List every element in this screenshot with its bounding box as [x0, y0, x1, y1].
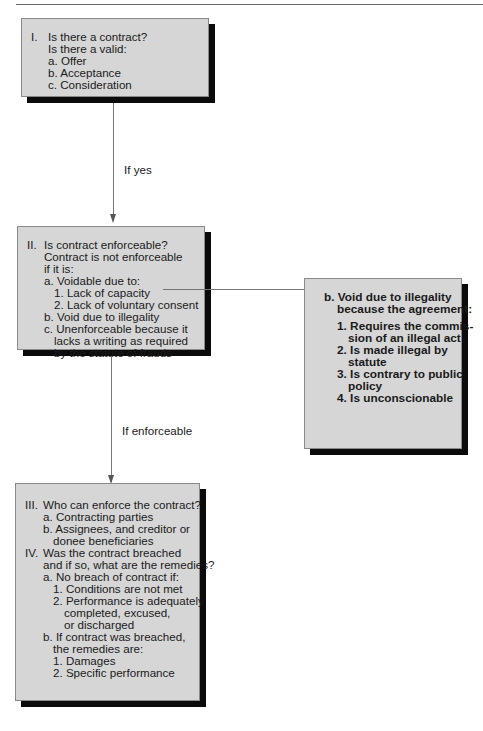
section-number: III.: [25, 499, 38, 511]
connector-label-if-yes: If yes: [124, 163, 152, 176]
box-is-there-a-contract: I. Is there a contract? Is there a valid…: [21, 18, 209, 97]
box-who-can-enforce-and-remedies: III. Who can enforce the contract? a. Co…: [15, 483, 200, 701]
header-rule: [16, 4, 483, 5]
connector-line: [113, 103, 114, 221]
text-line: because the agreement:: [337, 303, 472, 315]
arrow-down-icon: [110, 214, 116, 223]
section-number: IV.: [25, 547, 38, 559]
connector-label-if-enforceable: If enforceable: [122, 424, 192, 437]
section-number: II.: [27, 239, 37, 251]
list-item: c. Consideration: [48, 79, 132, 91]
list-item: 4. Is unconscionable: [337, 392, 453, 404]
box-is-contract-enforceable: II. Is contract enforceable? Contract is…: [17, 226, 205, 350]
text-line: by the statute of frauds: [54, 347, 172, 359]
connector-line: [111, 356, 112, 482]
list-item: 2. Specific performance: [53, 667, 175, 679]
section-number: I.: [31, 31, 37, 43]
box-void-due-to-illegality: b. Void due to illegality because the ag…: [304, 278, 462, 449]
